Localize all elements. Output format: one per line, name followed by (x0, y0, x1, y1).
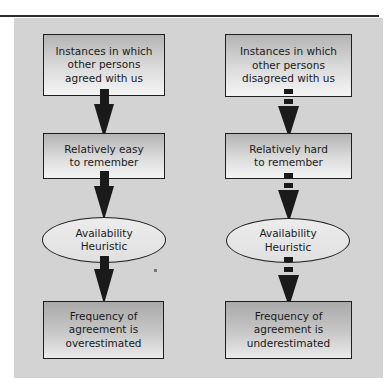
node-text-line: Instances in which (56, 45, 153, 59)
node-text-line: Frequency of (65, 310, 141, 324)
left-node-overestimated: Frequency of agreement is overestimated (43, 301, 164, 359)
node-text-line: Frequency of (247, 310, 330, 324)
node-text-line: agreed with us (56, 72, 153, 86)
left-node-agreed-instances: Instances in which other persons agreed … (43, 34, 165, 96)
solid-arrow-down-icon (92, 256, 116, 306)
node-text-line: to remember (64, 156, 143, 170)
node-text-line: other persons (56, 58, 153, 72)
node-text-line: other persons (240, 59, 337, 73)
node-text-line: Relatively easy (64, 143, 143, 157)
node-text-line: agreement is (65, 323, 141, 337)
top-rule-divider (0, 15, 379, 17)
right-node-underestimated: Frequency of agreement is underestimated (225, 301, 352, 359)
node-text-line: underestimated (247, 337, 330, 351)
node-text-line: disagreed with us (240, 72, 337, 86)
dashed-arrow-down-icon (277, 172, 301, 223)
node-text-line: agreement is (247, 323, 330, 337)
node-text-line: overestimated (65, 337, 141, 351)
node-text-line: Availability (75, 227, 132, 241)
node-text-line: to remember (249, 156, 328, 170)
node-text-line: Relatively hard (249, 143, 328, 157)
node-text-line: Instances in which (240, 45, 337, 59)
node-text-line: Heuristic (259, 241, 316, 255)
node-text-line: Heuristic (75, 240, 132, 254)
scan-speck (154, 269, 157, 272)
solid-arrow-down-icon (92, 89, 116, 139)
node-text-line: Availability (259, 227, 316, 241)
dashed-arrow-down-icon (277, 88, 301, 139)
solid-arrow-down-icon (92, 171, 116, 221)
